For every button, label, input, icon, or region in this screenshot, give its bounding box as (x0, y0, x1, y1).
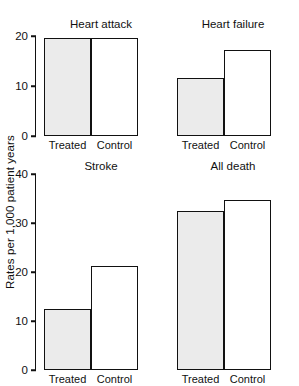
bar-heart-failure-control[interactable] (224, 50, 271, 137)
bar-stroke-control[interactable] (91, 266, 138, 370)
y-axis-ticklabel-30: 30 (15, 217, 28, 229)
plot-area-all-death (172, 174, 294, 370)
y-axis-tick-30 (31, 222, 36, 224)
bar-heart-attack-control[interactable] (91, 38, 138, 137)
y-axis-tick-10 (31, 85, 36, 87)
y-axis-ticklabel-40: 40 (15, 168, 28, 180)
y-axis-ticklabel-20: 20 (15, 30, 28, 42)
y-axis-tick-0 (31, 135, 36, 137)
x-label-stroke-treated: Treated (49, 373, 87, 385)
panel-heart-attack: Heart attack Treated Control (40, 18, 162, 150)
panel-row-top: 20 10 0 Heart attack Treated Control Hea… (0, 18, 299, 150)
y-axis-tick-40 (31, 173, 36, 175)
y-axis-tick-20 (31, 35, 36, 37)
x-label-heart-failure-control: Control (230, 139, 265, 151)
panel-row-bottom: 40 30 20 10 0 Stroke Treated Control All… (0, 160, 299, 386)
x-label-stroke-control: Control (97, 373, 132, 385)
bar-heart-attack-treated[interactable] (44, 38, 91, 137)
panel-title-all-death: All death (172, 160, 294, 172)
y-axis-tick-0 (31, 369, 36, 371)
figure-root: Rates per 1,000 patient years 20 10 0 He… (0, 0, 299, 386)
panel-title-stroke: Stroke (40, 160, 162, 172)
x-label-all-death-control: Control (230, 373, 265, 385)
y-axis-tick-10 (31, 320, 36, 322)
y-axis-ticklabel-10: 10 (15, 315, 28, 327)
y-axis-bottom: 40 30 20 10 0 (0, 174, 36, 370)
bar-all-death-treated[interactable] (177, 211, 224, 370)
panel-title-heart-attack: Heart attack (40, 18, 162, 30)
y-axis-ticklabel-0: 0 (22, 130, 28, 142)
y-axis-ticklabel-0: 0 (22, 364, 28, 376)
y-axis-tick-20 (31, 271, 36, 273)
y-axis-top: 20 10 0 (0, 36, 36, 136)
y-axis-ticklabel-20: 20 (15, 266, 28, 278)
bar-heart-failure-treated[interactable] (177, 78, 224, 137)
x-label-heart-attack-treated: Treated (49, 139, 87, 151)
panel-stroke: Stroke Treated Control (40, 160, 162, 386)
panel-all-death: All death Treated Control (172, 160, 294, 386)
x-label-all-death-treated: Treated (182, 373, 220, 385)
bar-stroke-treated[interactable] (44, 309, 91, 370)
bar-all-death-control[interactable] (224, 200, 271, 370)
plot-area-heart-attack (40, 36, 162, 136)
x-label-heart-attack-control: Control (97, 139, 132, 151)
y-axis-ticklabel-10: 10 (15, 80, 28, 92)
panel-heart-failure: Heart failure Treated Control (172, 18, 294, 150)
plot-area-heart-failure (172, 36, 294, 136)
plot-area-stroke (40, 174, 162, 370)
x-label-heart-failure-treated: Treated (182, 139, 220, 151)
panel-title-heart-failure: Heart failure (172, 18, 294, 30)
